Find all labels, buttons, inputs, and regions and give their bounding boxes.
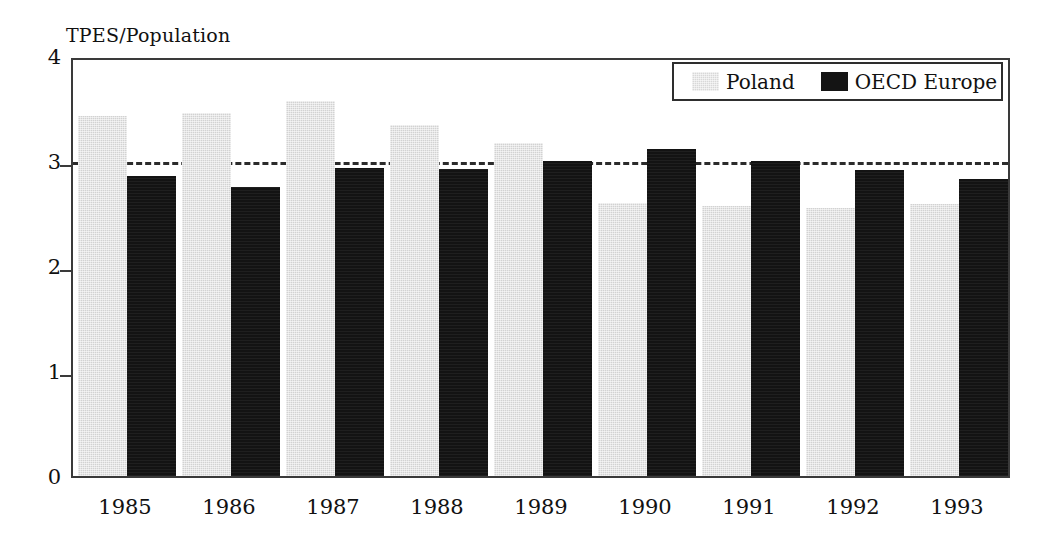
bar-oecd-europe-1992	[855, 170, 904, 476]
bar-poland-1992	[806, 208, 855, 476]
bar-oecd-europe-1989	[543, 161, 592, 476]
plot-inner	[73, 60, 1008, 476]
plot-area	[71, 58, 1010, 478]
x-axis-tick-label-1988: 1988	[388, 496, 486, 518]
poland-swatch-icon	[692, 72, 719, 91]
y-axis-tick-label: 0	[25, 467, 61, 488]
bar-oecd-europe-1988	[439, 169, 488, 476]
chart-legend: Poland OECD Europe	[672, 62, 1003, 101]
x-axis-tick-label-1993: 1993	[908, 496, 1006, 518]
x-axis-tick-label-1986: 1986	[180, 496, 278, 518]
legend-entry-poland: Poland	[692, 72, 795, 92]
bar-oecd-europe-1993	[959, 179, 1008, 476]
bar-poland-1990	[598, 203, 647, 476]
x-axis-tick-label-1991: 1991	[700, 496, 798, 518]
y-axis-tick-label: 3	[25, 152, 61, 173]
y-axis-tick-label: 2	[25, 257, 61, 278]
bar-poland-1985	[78, 116, 127, 476]
bar-poland-1991	[702, 206, 751, 476]
legend-entry-oecd-europe: OECD Europe	[821, 72, 997, 92]
bar-poland-1987	[286, 101, 335, 476]
bar-chart: TPES/Population 4 3 2 1 0	[0, 0, 1040, 550]
y-axis-tick	[60, 165, 73, 167]
bar-oecd-europe-1991	[751, 161, 800, 476]
bar-oecd-europe-1986	[231, 187, 280, 476]
y-axis-tick	[60, 375, 73, 377]
y-axis-tick-label: 1	[25, 362, 61, 383]
bar-oecd-europe-1985	[127, 176, 176, 476]
x-axis-tick-label-1987: 1987	[284, 496, 382, 518]
x-axis-tick-label-1985: 1985	[76, 496, 174, 518]
x-axis-tick-label-1992: 1992	[804, 496, 902, 518]
oecd-europe-swatch-icon	[821, 72, 848, 91]
x-axis-tick-label-1990: 1990	[596, 496, 694, 518]
x-axis-tick-label-1989: 1989	[492, 496, 590, 518]
bar-oecd-europe-1990	[647, 149, 696, 476]
bar-poland-1993	[910, 204, 959, 476]
y-axis-tick-label: 4	[25, 47, 61, 68]
legend-label-oecd-europe: OECD Europe	[855, 72, 997, 92]
legend-label-poland: Poland	[726, 72, 795, 92]
bar-poland-1986	[182, 113, 231, 476]
y-axis-tick	[60, 270, 73, 272]
chart-axis-title: TPES/Population	[66, 24, 230, 46]
bar-oecd-europe-1987	[335, 168, 384, 476]
bar-poland-1989	[494, 143, 543, 476]
bar-poland-1988	[390, 125, 439, 476]
